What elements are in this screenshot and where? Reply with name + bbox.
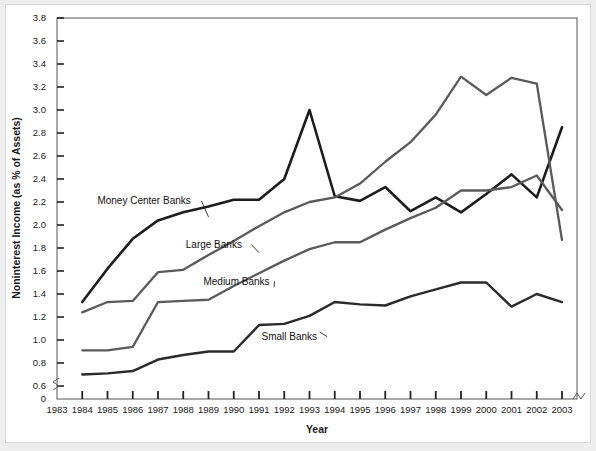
x-axis-title: Year (306, 423, 328, 435)
y-tick-label: 2.8 (33, 127, 46, 138)
x-tick-label: 2001 (501, 404, 522, 415)
y-tick-label: 3.2 (33, 81, 46, 92)
x-tick-label: 1989 (198, 404, 219, 415)
x-tick-label: 1990 (223, 404, 244, 415)
x-tick-label: 2003 (551, 404, 572, 415)
x-tick-label: 1984 (72, 404, 93, 415)
x-tick-label: 1985 (97, 404, 118, 415)
x-tick-label: 1987 (147, 404, 168, 415)
x-tick-label: 1996 (375, 404, 396, 415)
y-tick-label: 2.0 (33, 219, 46, 230)
x-tick-label: 2000 (476, 404, 497, 415)
y-tick-label: 1.4 (33, 288, 46, 299)
figure-page: 00.60.81.01.21.41.61.82.02.22.42.62.83.0… (0, 0, 596, 451)
x-tick-label: 1986 (122, 404, 143, 415)
line-chart: 00.60.81.01.21.41.61.82.02.22.42.62.83.0… (6, 5, 590, 442)
y-tick-label: 1.6 (33, 265, 46, 276)
series-label-3: Small Banks (262, 331, 318, 342)
y-tick-label: 3.4 (33, 58, 46, 69)
y-tick-label: 2.2 (33, 196, 46, 207)
y-tick-label: 1.0 (33, 334, 46, 345)
y-tick-label: 2.4 (33, 173, 46, 184)
x-tick-label: 1993 (299, 404, 320, 415)
y-tick-label: 3.8 (33, 12, 46, 23)
y-tick-label: 1.2 (33, 311, 46, 322)
x-tick-label: 2002 (526, 404, 547, 415)
x-tick-label: 1991 (248, 404, 269, 415)
y-tick-label: 3.0 (33, 104, 46, 115)
x-tick-label: 1999 (450, 404, 471, 415)
series-label-1: Large Banks (186, 239, 242, 250)
y-tick-label: 3.6 (33, 35, 46, 46)
y-tick-label: 2.6 (33, 150, 46, 161)
x-tick-label: 1994 (324, 404, 345, 415)
series-label-0: Money Center Banks (97, 195, 190, 206)
x-tick-label: 1983 (46, 404, 67, 415)
x-tick-label: 1995 (349, 404, 370, 415)
x-tick-label: 1988 (173, 404, 194, 415)
y-tick-label: 1.8 (33, 242, 46, 253)
x-tick-label: 1998 (425, 404, 446, 415)
y-tick-label: 0.8 (33, 357, 46, 368)
y-tick-label: 0 (41, 393, 46, 404)
x-tick-label: 1992 (274, 404, 295, 415)
y-tick-label: 0.6 (33, 380, 46, 391)
x-tick-label: 1997 (400, 404, 421, 415)
y-axis-title: Noninterest Income (as % of Assets) (10, 117, 22, 299)
figure-card: 00.60.81.01.21.41.61.82.02.22.42.62.83.0… (6, 5, 590, 442)
series-label-2: Medium Banks (203, 276, 269, 287)
